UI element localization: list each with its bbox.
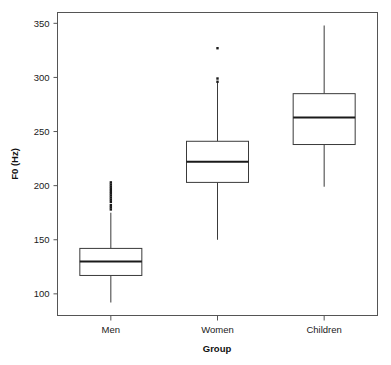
outlier-point (110, 186, 112, 188)
outlier-point (110, 196, 112, 198)
y-tick-label: 150 (34, 234, 50, 245)
x-tick-label-women: Women (201, 324, 234, 335)
box-iqr (293, 94, 355, 145)
outlier-point (110, 192, 112, 194)
x-tick-label-children: Children (306, 324, 341, 335)
y-tick-label: 100 (34, 288, 50, 299)
outlier-point (110, 204, 112, 206)
boxplot-canvas: 100150200250300350 F0 (Hz) MenWomenChild… (0, 0, 391, 365)
x-tick-label-men: Men (102, 324, 120, 335)
outlier-point (110, 201, 112, 203)
outlier-point (110, 199, 112, 201)
x-axis-title: Group (203, 343, 232, 354)
outlier-point (110, 208, 112, 210)
boxplot-figure: 100150200250300350 F0 (Hz) MenWomenChild… (0, 0, 391, 365)
y-tick-label: 250 (34, 126, 50, 137)
outlier-point (110, 194, 112, 196)
outlier-point (110, 190, 112, 192)
outlier-point (110, 183, 112, 185)
outlier-point (110, 206, 112, 208)
outlier-point (110, 188, 112, 190)
y-tick-label: 350 (34, 18, 50, 29)
y-tick-label: 200 (34, 180, 50, 191)
outlier-point (216, 47, 218, 49)
y-tick-label: 300 (34, 72, 50, 83)
outlier-point (216, 81, 218, 83)
outlier-point (110, 181, 112, 183)
y-axis-title: F0 (Hz) (9, 148, 20, 180)
outlier-point (216, 77, 218, 79)
